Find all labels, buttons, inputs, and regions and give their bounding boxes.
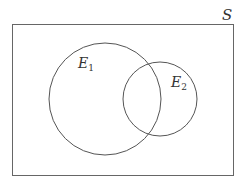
set-e2-circle <box>123 62 197 136</box>
venn-diagram: S E1 E2 <box>0 0 245 181</box>
sample-space-label: S <box>222 6 232 24</box>
set-e2-label: E2 <box>170 74 187 92</box>
set-e1-circle <box>49 43 161 155</box>
set-e1-label: E1 <box>77 55 94 73</box>
